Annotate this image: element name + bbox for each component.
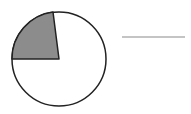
- shaded-sector: [12, 12, 59, 59]
- fraction-diagram: [0, 0, 191, 114]
